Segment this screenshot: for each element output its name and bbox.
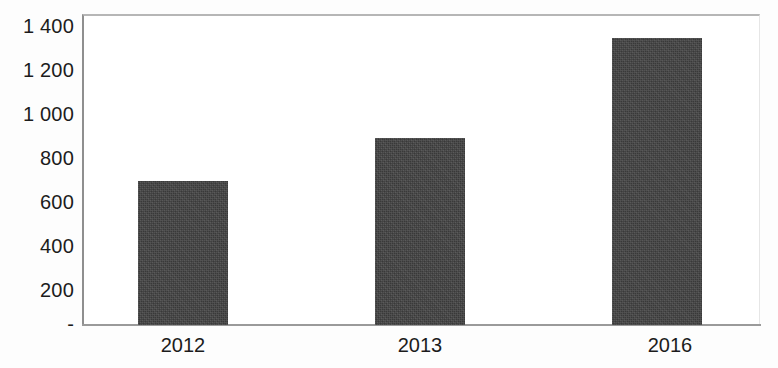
x-tick-label-2016: 2016 [620,333,720,357]
bar-2016[interactable] [612,38,702,325]
x-tick-label-2012: 2012 [133,333,233,357]
x-axis: 2012 2013 2016 [0,333,778,368]
bar-2013[interactable] [375,138,465,325]
x-tick-label-2013: 2013 [370,333,470,357]
bar-2012[interactable] [138,181,228,325]
bars-layer [0,0,778,368]
bar-chart: 1 400 1 200 1 000 800 600 400 200 - 2012… [0,0,778,368]
